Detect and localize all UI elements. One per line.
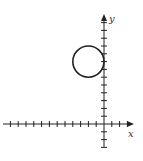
axes <box>3 20 128 147</box>
y-axis-label: y <box>108 13 115 24</box>
coordinate-plane: x y <box>0 0 143 161</box>
x-axis-label: x <box>128 128 134 139</box>
circle-shape <box>73 46 104 77</box>
axis-ticks <box>10 23 127 148</box>
x-axis-arrow-icon <box>127 121 134 127</box>
y-axis-arrow-icon <box>101 14 107 21</box>
